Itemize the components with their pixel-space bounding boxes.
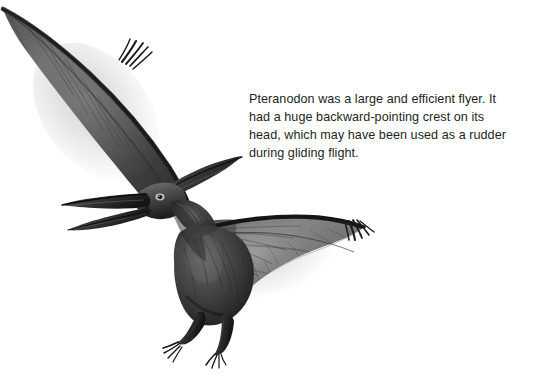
illustration-page: Pteranodon was a large and efficient fly…: [0, 0, 534, 377]
left-wing: [3, 9, 188, 208]
pteranodon-illustration: [0, 0, 534, 377]
legs: [163, 311, 234, 368]
caption-text: Pteranodon was a large and efficient fly…: [249, 90, 531, 162]
left-wing-claws: [119, 39, 152, 69]
